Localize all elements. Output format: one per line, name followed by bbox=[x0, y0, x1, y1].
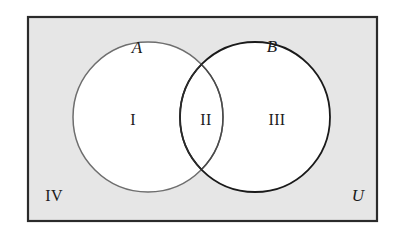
region-four-label: IV bbox=[45, 188, 62, 204]
set-b-label: B bbox=[267, 38, 277, 55]
set-a-label: A bbox=[132, 39, 142, 56]
region-three-label: III bbox=[269, 112, 286, 128]
venn-diagram: A B I II III IV U bbox=[0, 0, 400, 239]
universal-set-label: U bbox=[352, 187, 364, 204]
region-one-label: I bbox=[130, 112, 136, 128]
region-two-label: II bbox=[200, 112, 211, 128]
